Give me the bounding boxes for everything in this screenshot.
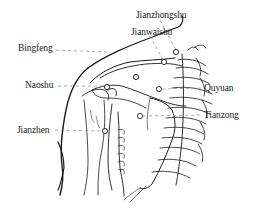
trapezius-outline [88, 16, 183, 68]
acupoints [102, 49, 178, 133]
label-naoshu: Naoshu [25, 81, 53, 91]
label-jianzhen: Jianzhen [17, 126, 49, 136]
point-jianwaishu [161, 59, 166, 64]
leader-bingfeng [56, 50, 108, 52]
point-jianzhongshu [173, 49, 178, 54]
leader-jianwaishu [150, 36, 163, 60]
shoulder-outline [60, 68, 88, 195]
point-tianzong [137, 113, 142, 118]
shoulder-acupoint-diagram: Jianzhongshu Jianwaishu Bingfeng Naoshu … [0, 0, 254, 222]
leader-tianzong [143, 115, 202, 116]
point-jianzhen [102, 128, 107, 133]
label-tianzong: Tianzong [204, 111, 239, 121]
rib-hatching [118, 129, 146, 202]
label-bingfeng: Bingfeng [18, 44, 53, 54]
point-quyuan [156, 86, 161, 91]
label-jianzhongshu: Jianzhongshu [136, 11, 187, 21]
label-jianwaishu: Jianwaishu [131, 28, 172, 38]
leader-lines [55, 20, 202, 131]
point-bingfeng [133, 74, 138, 79]
label-quyuan: Quyuan [204, 84, 233, 94]
scapula-outline [108, 104, 112, 190]
point-naoshu [104, 84, 109, 89]
